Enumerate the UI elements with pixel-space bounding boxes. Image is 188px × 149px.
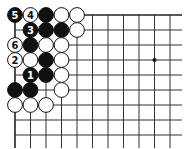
- white-stone: [54, 83, 69, 98]
- stone-disc: [23, 98, 38, 113]
- black-stone: [8, 83, 23, 98]
- stone-disc: [8, 98, 23, 113]
- stone-disc: [8, 83, 23, 98]
- white-stone: 6: [8, 38, 23, 53]
- white-stone: [39, 38, 54, 53]
- stone-disc: [54, 8, 69, 23]
- star-point: [153, 58, 157, 62]
- white-stone: [70, 8, 85, 23]
- stone-disc: [39, 98, 54, 113]
- move-number: 1: [27, 70, 34, 81]
- white-stone: 4: [23, 8, 38, 23]
- stone-disc: [23, 53, 38, 68]
- black-stone: [54, 23, 69, 38]
- white-stone: 2: [8, 53, 23, 68]
- white-stone: [23, 53, 38, 68]
- black-stone: [39, 8, 54, 23]
- stone-disc: [54, 83, 69, 98]
- black-stone: [23, 38, 38, 53]
- stone-disc: [39, 53, 54, 68]
- white-stone: [23, 98, 38, 113]
- stone-disc: [39, 38, 54, 53]
- black-stone: 3: [23, 23, 38, 38]
- white-stone: [54, 53, 69, 68]
- stone-disc: [54, 68, 69, 83]
- white-stone: [54, 68, 69, 83]
- move-number: 4: [27, 10, 34, 21]
- move-number: 2: [12, 55, 19, 66]
- stone-disc: [39, 68, 54, 83]
- star-points: [153, 58, 157, 62]
- stone-disc: [70, 8, 85, 23]
- white-stone: [54, 38, 69, 53]
- move-number: 3: [27, 25, 34, 36]
- stone-disc: [39, 23, 54, 38]
- stone-disc: [54, 38, 69, 53]
- black-stone: [39, 23, 54, 38]
- white-stone: [70, 23, 85, 38]
- black-stone: [23, 83, 38, 98]
- black-stone: [39, 53, 54, 68]
- stone-disc: [23, 83, 38, 98]
- white-stone: [54, 8, 69, 23]
- black-stone: [39, 68, 54, 83]
- black-stone: 5: [8, 8, 23, 23]
- stone-disc: [39, 8, 54, 23]
- move-number: 6: [12, 40, 19, 51]
- stone-disc: [70, 23, 85, 38]
- move-number: 5: [12, 10, 19, 21]
- stone-disc: [54, 53, 69, 68]
- white-stone: [8, 98, 23, 113]
- white-stone: [39, 98, 54, 113]
- stone-disc: [54, 23, 69, 38]
- go-board: 543621: [0, 0, 188, 149]
- black-stone: 1: [23, 68, 38, 83]
- stone-disc: [23, 38, 38, 53]
